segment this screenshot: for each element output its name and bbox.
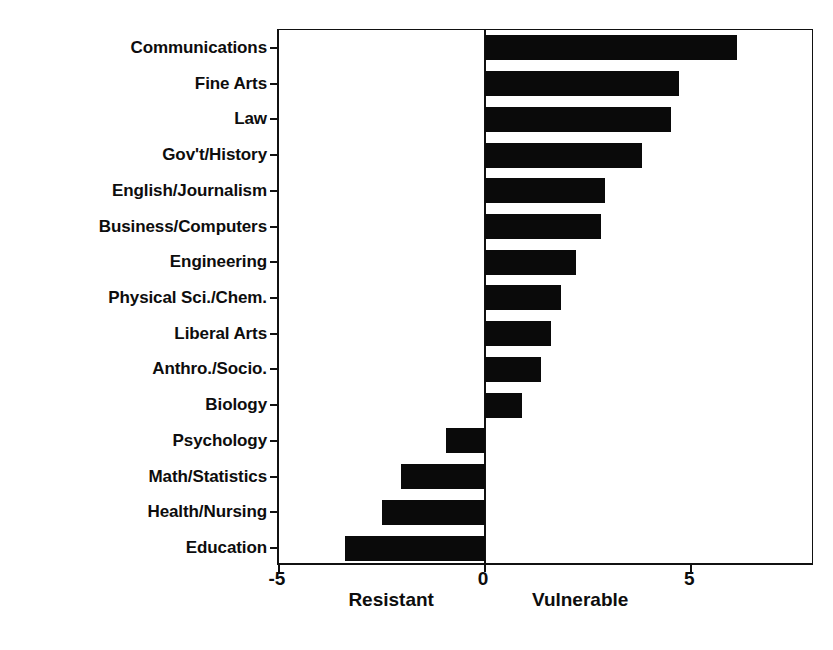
category-label: Psychology: [173, 431, 267, 448]
category-label: Liberal Arts: [174, 324, 267, 341]
y-axis-tick: [270, 261, 279, 263]
x-axis-tick-label: -5: [269, 568, 286, 590]
bar: [485, 321, 551, 346]
bar: [345, 536, 485, 561]
y-axis-tick: [270, 190, 279, 192]
y-axis-tick: [270, 404, 279, 406]
category-label: Physical Sci./Chem.: [108, 289, 267, 306]
y-axis-tick: [270, 476, 279, 478]
bar: [485, 393, 522, 418]
bar: [485, 214, 600, 239]
category-label: English/Journalism: [112, 181, 267, 198]
y-axis-tick: [270, 440, 279, 442]
bar: [382, 500, 485, 525]
bar: [485, 357, 541, 382]
y-axis-tick: [270, 47, 279, 49]
category-label: Fine Arts: [195, 74, 267, 91]
category-label: Communications: [130, 38, 267, 55]
bar: [485, 35, 737, 60]
category-label: Law: [234, 110, 267, 127]
bar: [485, 71, 679, 96]
bar: [401, 464, 486, 489]
x-axis-tick-label: 0: [478, 568, 489, 590]
y-axis-tick: [270, 368, 279, 370]
bar: [446, 428, 485, 453]
y-axis-tick: [270, 333, 279, 335]
category-label: Math/Statistics: [149, 467, 267, 484]
y-axis-tick: [270, 118, 279, 120]
category-label: Gov't/History: [162, 146, 267, 163]
y-axis-tick: [270, 547, 279, 549]
category-label: Business/Computers: [99, 217, 267, 234]
y-axis-tick: [270, 83, 279, 85]
bar: [485, 250, 576, 275]
category-label: Engineering: [170, 253, 267, 270]
bar: [485, 178, 605, 203]
y-axis-tick: [270, 226, 279, 228]
y-axis-tick: [270, 511, 279, 513]
y-axis-tick: [270, 154, 279, 156]
category-label: Health/Nursing: [147, 503, 267, 520]
bar: [485, 285, 561, 310]
y-axis-tick: [270, 297, 279, 299]
plot-area: [277, 29, 813, 565]
bar: [485, 107, 671, 132]
vulnerability-bar-chart: CommunicationsFine ArtsLawGov't/HistoryE…: [0, 0, 833, 650]
axis-direction-label-resistant: Resistant: [348, 589, 434, 611]
category-label: Anthro./Socio.: [152, 360, 267, 377]
axis-direction-label-vulnerable: Vulnerable: [532, 589, 628, 611]
x-axis-tick-label: 5: [684, 568, 695, 590]
category-label: Education: [186, 539, 267, 556]
category-label: Biology: [205, 396, 267, 413]
bar: [485, 143, 642, 168]
